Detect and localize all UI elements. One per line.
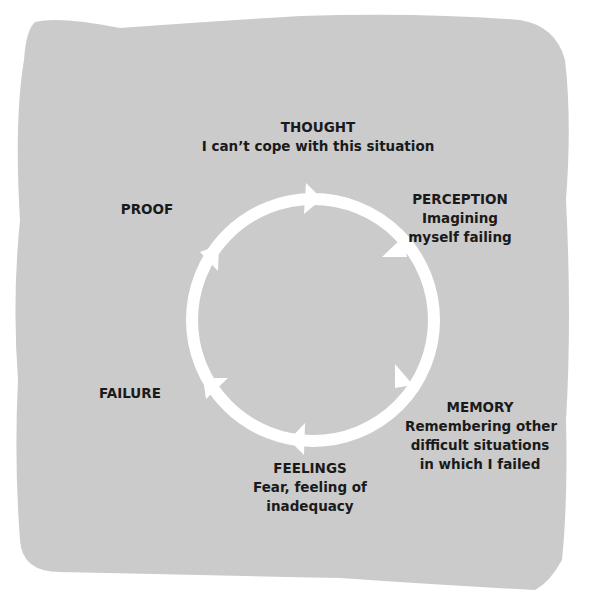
node-failure: FAILURE: [90, 384, 170, 403]
node-memory-title: MEMORY: [405, 398, 555, 417]
node-perception: PERCEPTION Imagining myself failing: [400, 190, 520, 247]
node-perception-desc-2: myself failing: [400, 228, 520, 247]
node-memory-desc-3: in which I failed: [405, 455, 555, 474]
node-failure-title: FAILURE: [90, 384, 170, 403]
node-thought-title: THOUGHT: [193, 118, 443, 137]
node-proof-title: PROOF: [112, 200, 182, 219]
node-thought: THOUGHT I can’t cope with this situation: [193, 118, 443, 156]
node-memory-desc-2: difficult situations: [405, 436, 555, 455]
node-feelings-desc-2: inadequacy: [240, 497, 380, 516]
node-perception-title: PERCEPTION: [400, 190, 520, 209]
node-feelings: FEELINGS Fear, feeling of inadequacy: [240, 459, 380, 516]
node-feelings-title: FEELINGS: [240, 459, 380, 478]
node-memory-desc-1: Remembering other: [405, 417, 555, 436]
node-proof: PROOF: [112, 200, 182, 219]
node-perception-desc-1: Imagining: [400, 209, 520, 228]
node-thought-desc: I can’t cope with this situation: [193, 137, 443, 156]
node-memory: MEMORY Remembering other difficult situa…: [405, 398, 555, 474]
node-feelings-desc-1: Fear, feeling of: [240, 478, 380, 497]
